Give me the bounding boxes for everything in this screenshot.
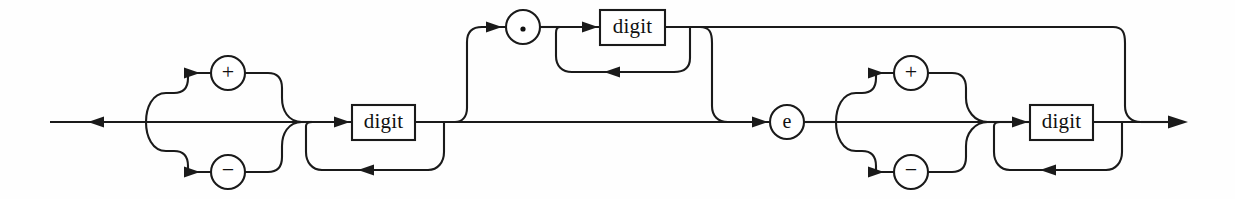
exponent-sign-plus-label: + xyxy=(905,59,917,84)
fraction-repeat-arrow-icon xyxy=(604,67,620,78)
sign-minus-label: − xyxy=(222,157,234,182)
integer-digit-label: digit xyxy=(364,109,404,133)
exponent-repeat-arrow-icon xyxy=(1040,165,1056,176)
number-syntax-diagram: + − digit xyxy=(0,0,1235,199)
sign-plus-label: + xyxy=(222,59,234,84)
decimal-point-glyph-icon xyxy=(520,26,525,31)
exponent-e-arrow-icon xyxy=(752,117,768,128)
exponent-digit-label: digit xyxy=(1042,109,1082,133)
exponent-plus-out-line xyxy=(928,73,988,122)
exponent-sign-minus-label: − xyxy=(905,157,917,182)
sign-plus-in-line xyxy=(146,73,211,122)
entry-arrow-icon xyxy=(88,117,104,128)
fraction-rejoin-line xyxy=(700,27,728,122)
integer-repeat-arrow-icon xyxy=(358,165,374,176)
sign-choice-group: + − xyxy=(146,56,302,189)
sign-minus-arrow-icon xyxy=(184,167,200,178)
sign-plus-out-line xyxy=(245,73,302,122)
sign-minus-out-line xyxy=(245,122,302,172)
exponent-plus-in-line xyxy=(836,73,894,122)
fraction-digit-arrow-icon xyxy=(582,22,598,33)
exponent-bypass-rejoin-line xyxy=(1113,27,1141,122)
exit-arrow-icon xyxy=(1168,116,1188,129)
exponent-e-label: e xyxy=(783,110,792,132)
fraction-dot-arrow-icon xyxy=(486,22,502,33)
fraction-part-group: digit xyxy=(455,10,728,122)
exponent-minus-out-line xyxy=(928,122,988,172)
entry-track xyxy=(50,117,146,128)
exit-track xyxy=(1141,116,1188,129)
integer-digit-arrow-icon xyxy=(334,117,350,128)
exponent-sign-choice-group: + − xyxy=(836,56,988,189)
exponent-digit-arrow-icon xyxy=(1012,117,1028,128)
sign-plus-arrow-icon xyxy=(184,68,200,79)
fraction-digit-label: digit xyxy=(613,14,653,38)
exponent-digits-group: digit xyxy=(988,105,1141,176)
fraction-branch-up-line xyxy=(455,27,506,122)
sign-minus-in-line xyxy=(146,122,211,172)
railroad-diagram-canvas: + − digit xyxy=(0,0,1235,199)
exponent-part-group: e xyxy=(752,105,836,139)
integer-part-group: digit xyxy=(302,105,467,176)
exponent-minus-in-line xyxy=(836,122,894,172)
